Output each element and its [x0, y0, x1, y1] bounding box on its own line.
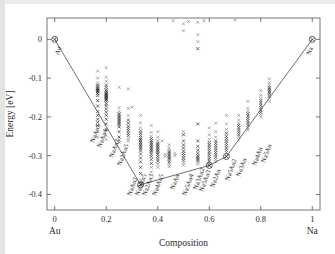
x-tick-label: 0 [53, 214, 57, 224]
data-point [105, 88, 108, 91]
data-point [268, 89, 271, 92]
data-point [130, 106, 133, 109]
data-point [168, 150, 171, 153]
y-tick-label: -0.3 [29, 151, 42, 161]
data-point [96, 84, 99, 87]
data-point [118, 120, 121, 123]
y-tick-label: -0.2 [29, 112, 42, 122]
data-point [139, 166, 142, 169]
data-point [150, 124, 153, 127]
data-point [225, 132, 228, 135]
data-point [196, 40, 199, 43]
data-point [196, 157, 199, 160]
data-point [168, 143, 171, 146]
data-point [268, 100, 271, 103]
data-point [150, 131, 153, 134]
data-point [196, 139, 199, 142]
data-point [139, 143, 142, 146]
hull-vertex-marker [225, 155, 229, 159]
data-point [182, 164, 185, 167]
data-point [225, 122, 228, 125]
data-point [214, 136, 217, 139]
data-point [196, 21, 199, 24]
data-point [246, 100, 249, 103]
data-point [259, 89, 262, 92]
plot-canvas: 00.20.40.60.810-0.1-0.2-0.3-0.4Compositi… [0, 0, 335, 254]
data-point [196, 145, 199, 148]
data-point [208, 133, 211, 136]
data-point [150, 162, 153, 165]
data-point [246, 107, 249, 110]
data-point [268, 77, 271, 80]
y-tick-label: -0.4 [29, 189, 43, 199]
data-point [105, 80, 108, 83]
data-point [96, 118, 99, 121]
data-point [96, 121, 99, 124]
data-point [118, 115, 121, 118]
data-point [214, 130, 217, 133]
data-point [150, 158, 153, 161]
phase-label-na2au: Na2Au [208, 167, 221, 188]
data-point [156, 130, 159, 133]
data-point [268, 91, 271, 94]
x-tick-label: 0.2 [101, 214, 112, 224]
data-point [196, 149, 199, 152]
y-tick-label: 0 [38, 34, 42, 44]
data-point [139, 160, 142, 163]
data-point [156, 143, 159, 146]
x-tick-label: 0.8 [255, 214, 266, 224]
data-point [196, 47, 199, 50]
x-tick-label: 1 [310, 214, 314, 224]
data-point [172, 19, 175, 22]
formation-energy-chart: 00.20.40.60.810-0.1-0.2-0.3-0.4Compositi… [0, 0, 335, 254]
hull-vertex-marker [310, 38, 314, 42]
data-point [196, 156, 199, 159]
data-point [139, 138, 142, 141]
data-point [139, 122, 142, 125]
data-point [127, 122, 130, 125]
data-point [196, 159, 199, 162]
data-point [156, 142, 159, 145]
data-point [182, 29, 185, 32]
data-point [203, 19, 206, 22]
data-point [173, 154, 176, 157]
data-point [156, 136, 159, 139]
data-point [139, 114, 142, 117]
data-point [156, 163, 159, 166]
data-point [96, 94, 99, 97]
data-point [268, 86, 271, 89]
data-point [208, 138, 211, 141]
data-point [196, 122, 199, 125]
data-point [96, 99, 99, 102]
data-point [237, 114, 240, 117]
data-point [150, 166, 153, 169]
data-point [168, 165, 171, 168]
data-point [234, 18, 237, 21]
data-point [156, 166, 159, 169]
data-point [127, 134, 130, 137]
data-point [127, 107, 130, 110]
x-end-label-au: Au [49, 226, 61, 236]
data-point [139, 136, 142, 139]
phase-label-na5au: Na5Au [259, 142, 272, 163]
x-tick-label: 0.6 [204, 214, 215, 224]
data-point [196, 154, 199, 157]
data-point [196, 163, 199, 166]
data-point [139, 139, 142, 142]
data-point [214, 122, 217, 125]
data-point [139, 146, 142, 149]
phase-label-na3au: Na3Au [234, 156, 247, 177]
data-point [150, 149, 153, 152]
data-point [182, 139, 185, 142]
data-point [182, 146, 185, 149]
data-point [127, 114, 130, 117]
data-point [105, 108, 108, 111]
data-point [208, 126, 211, 129]
phase-label-naau: NaAu [168, 172, 180, 190]
y-axis-title: Energy [eV] [5, 90, 15, 137]
data-point [168, 155, 171, 158]
data-point [105, 66, 108, 69]
data-point [118, 125, 121, 128]
data-point [259, 94, 262, 97]
data-point [156, 160, 159, 163]
